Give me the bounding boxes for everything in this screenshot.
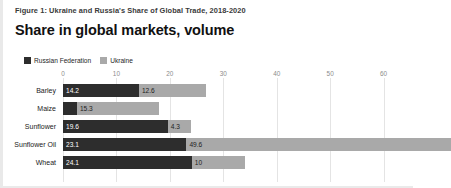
legend-item-ukraine[interactable]: Ukraine (100, 57, 133, 64)
x-axis-tick-label: 0 (61, 70, 65, 77)
category-label: Wheat (36, 159, 56, 166)
gridline (277, 78, 278, 182)
x-axis-tick-label: 30 (220, 70, 227, 77)
bar-value-label: 49.6 (186, 141, 202, 148)
x-axis-tick-label: 20 (166, 70, 173, 77)
gridline (330, 78, 331, 182)
bar-value-label: 23.1 (63, 141, 79, 148)
bar-segment[interactable] (63, 102, 77, 115)
x-axis-tick-label: 10 (113, 70, 120, 77)
bar-segment[interactable]: 15.3 (77, 102, 159, 115)
figure-caption: Figure 1: Ukraine and Russia's Share of … (15, 6, 246, 15)
bar-segment[interactable]: 23.1 (63, 138, 186, 151)
bar-value-label: 15.3 (77, 105, 93, 112)
bar-segment[interactable]: 4.3 (168, 120, 191, 133)
bar-segment[interactable]: 12.6 (139, 84, 206, 97)
legend-label-russian-federation: Russian Federation (34, 57, 91, 64)
chart-legend: Russian Federation Ukraine (24, 57, 133, 64)
x-axis-tick-label: 40 (273, 70, 280, 77)
chart-title: Share in global markets, volume (15, 22, 234, 38)
x-axis-tick-label: 50 (327, 70, 334, 77)
category-axis: BarleyMaizeSunflowerSunflower OilWheat (3, 70, 61, 182)
bar-value-label: 12.6 (139, 87, 155, 94)
category-label: Maize (37, 105, 56, 112)
x-axis-tick-label: 60 (380, 70, 387, 77)
category-label: Sunflower Oil (14, 141, 56, 148)
legend-swatch-ukraine (100, 57, 107, 64)
bar-value-label: 4.3 (168, 123, 180, 130)
gridline (384, 78, 385, 182)
legend-swatch-russian-federation (24, 57, 31, 64)
plot-area: 010203040506014.212.615.319.64.323.149.6… (63, 70, 413, 182)
bar-segment[interactable]: 49.6 (186, 138, 451, 151)
bar-segment[interactable]: 24.1 (63, 156, 192, 169)
bar-segment[interactable]: 19.6 (63, 120, 168, 133)
bar-value-label: 14.2 (63, 87, 79, 94)
bar-segment[interactable]: 14.2 (63, 84, 139, 97)
bar-segment[interactable]: 10 (192, 156, 245, 169)
bar-value-label: 19.6 (63, 123, 79, 130)
legend-item-russian-federation[interactable]: Russian Federation (24, 57, 91, 64)
category-label: Sunflower (25, 123, 56, 130)
legend-label-ukraine: Ukraine (110, 57, 133, 64)
bar-value-label: 24.1 (63, 159, 79, 166)
bar-value-label: 10 (192, 159, 202, 166)
category-label: Barley (36, 87, 56, 94)
